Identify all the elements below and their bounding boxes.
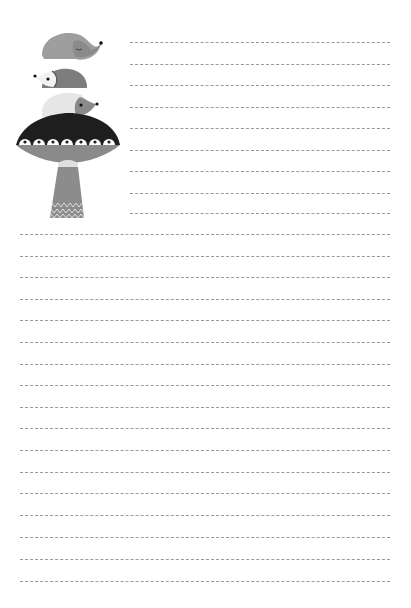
writing-line-full <box>20 256 390 257</box>
writing-line-full <box>20 407 390 408</box>
writing-line-short <box>130 85 390 86</box>
writing-line-full <box>20 493 390 494</box>
writing-line-full <box>20 385 390 386</box>
writing-line-full <box>20 342 390 343</box>
writing-line-short <box>130 128 390 129</box>
mushroom-icon <box>16 113 120 218</box>
hedgehog-middle-icon <box>33 69 87 88</box>
writing-line-full <box>20 450 390 451</box>
writing-line-full <box>20 472 390 473</box>
writing-line-short <box>130 171 390 172</box>
writing-line-full <box>20 559 390 560</box>
writing-line-full <box>20 537 390 538</box>
writing-line-full <box>20 364 390 365</box>
writing-line-full <box>20 581 390 582</box>
writing-line-full <box>20 277 390 278</box>
writing-line-full <box>20 320 390 321</box>
writing-line-full <box>20 234 390 235</box>
writing-line-full <box>20 515 390 516</box>
writing-line-short <box>130 213 390 214</box>
writing-line-short <box>130 42 390 43</box>
writing-line-short <box>130 64 390 65</box>
writing-line-full <box>20 299 390 300</box>
writing-line-short <box>130 150 390 151</box>
illustration-hedgehogs-on-mushroom <box>12 25 122 220</box>
writing-line-short <box>130 107 390 108</box>
writing-line-short <box>130 193 390 194</box>
hedgehog-top-icon <box>42 33 103 60</box>
writing-line-full <box>20 428 390 429</box>
